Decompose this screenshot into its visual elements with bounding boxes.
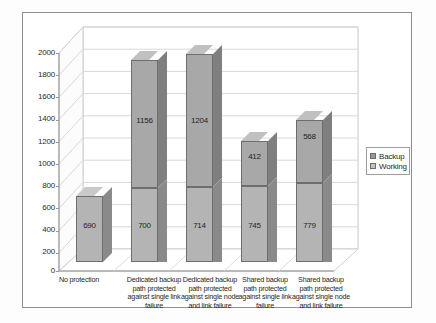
ytick-label-1000: 1000 — [25, 159, 55, 168]
ytick-mark — [56, 231, 59, 232]
ytick-label-1400: 1400 — [25, 114, 55, 123]
bar-side-face — [268, 132, 277, 186]
bar-value-label-working: 714 — [186, 221, 213, 230]
bar-side-face — [323, 111, 332, 183]
bar-value-label-backup: 412 — [241, 152, 268, 161]
ytick-mark — [56, 97, 59, 98]
bar-value-label-backup: 1204 — [186, 116, 213, 125]
chart-frame: 2000 1800 1600 1400 1200 1000 800 600 40… — [22, 12, 412, 308]
ytick-label-400: 400 — [25, 225, 55, 234]
bar-front-face — [296, 120, 323, 183]
bar-value-label-working: 690 — [76, 221, 103, 230]
ytick-mark — [56, 120, 59, 121]
bar-value-label-working: 779 — [296, 221, 323, 230]
ytick-label-0: 0 — [25, 266, 55, 275]
ytick-label-800: 800 — [25, 181, 55, 190]
category-label-shared-node-link: Shared backup path protected against sin… — [284, 276, 358, 310]
ytick-mark — [56, 253, 59, 254]
ytick-mark — [56, 208, 59, 209]
ytick-mark — [56, 142, 59, 143]
ytick-mark — [56, 186, 59, 187]
bar-value-label-working: 745 — [241, 221, 268, 230]
ytick-mark — [56, 53, 59, 54]
legend-swatch-icon — [370, 163, 376, 169]
bar-value-label-working: 700 — [131, 221, 158, 230]
bar-value-label-backup: 568 — [296, 132, 323, 141]
ytick-mark — [56, 271, 59, 272]
chart-legend: Backup Working — [366, 147, 410, 175]
legend-item-working[interactable]: Working — [370, 161, 404, 171]
bar-side-face — [103, 187, 112, 262]
legend-swatch-icon — [370, 153, 376, 159]
ytick-label-200: 200 — [25, 247, 55, 256]
bar-side-face — [323, 174, 332, 262]
ytick-label-1800: 1800 — [25, 70, 55, 79]
bar-front-face — [241, 141, 268, 186]
bar-side-face — [158, 51, 167, 188]
chart-screenshot: 2000 1800 1600 1400 1200 1000 800 600 40… — [0, 0, 436, 323]
legend-label-working: Working — [379, 162, 407, 171]
plot-area: 2000 1800 1600 1400 1200 1000 800 600 40… — [23, 13, 413, 309]
category-label-no-protection: No protection — [41, 276, 117, 285]
ytick-label-1600: 1600 — [25, 92, 55, 101]
legend-label-backup: Backup — [379, 152, 404, 161]
category-label-line: and link failure — [284, 302, 358, 311]
bar-side-face — [268, 177, 277, 262]
legend-item-backup[interactable]: Backup — [370, 151, 404, 161]
ytick-label-1200: 1200 — [25, 137, 55, 146]
bar-segment-backup — [241, 141, 268, 186]
bar-side-face — [213, 178, 222, 262]
bar-side-face — [158, 179, 167, 262]
ytick-label-2000: 2000 — [25, 48, 55, 57]
bar-side-face — [213, 45, 222, 187]
ytick-mark — [56, 164, 59, 165]
ytick-label-600: 600 — [25, 203, 55, 212]
ytick-mark — [56, 75, 59, 76]
bar-value-label-backup: 1156 — [131, 116, 158, 125]
category-label-line: No protection — [41, 276, 117, 285]
bar-segment-backup — [296, 120, 323, 183]
